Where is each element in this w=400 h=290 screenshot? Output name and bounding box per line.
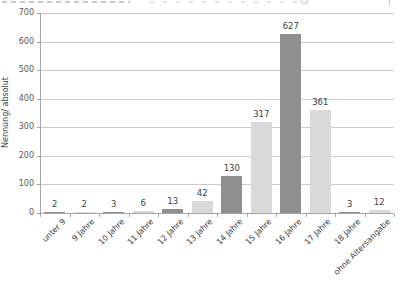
bar <box>280 34 301 213</box>
bar <box>251 122 272 213</box>
x-tick-label: 13 Jahre <box>185 217 215 247</box>
clipped-text-remnant <box>301 0 308 4</box>
gridline <box>40 99 394 100</box>
x-tick-mark <box>365 214 366 217</box>
x-tick-mark <box>335 214 336 217</box>
x-tick-label: 14 Jahre <box>214 217 244 247</box>
screenshot-root: { "chart_data": { "type": "bar", "title"… <box>0 0 400 290</box>
x-tick-mark <box>247 214 248 217</box>
gridline <box>40 42 394 43</box>
bar-value-label: 42 <box>197 188 208 198</box>
clipped-text-remnant <box>2 1 130 3</box>
x-tick-mark <box>70 214 71 217</box>
bar-chart: Nennung/ absolut 01002003004005006007002… <box>0 0 400 290</box>
x-tick-mark <box>394 214 395 217</box>
bar-value-label: 3 <box>111 199 116 209</box>
bar-value-label: 361 <box>312 97 328 107</box>
plot-area <box>40 13 394 213</box>
bar-value-label: 12 <box>374 197 385 207</box>
bar-value-label: 3 <box>347 199 352 209</box>
y-tick-label: 200 <box>0 151 34 160</box>
x-tick-label: 18 Jahre <box>332 217 362 247</box>
gridline <box>40 184 394 185</box>
bar <box>310 110 331 213</box>
x-tick-label: 12 Jahre <box>155 217 185 247</box>
x-tick-label: 15 Jahre <box>244 217 274 247</box>
clipped-text-remnant <box>150 1 300 3</box>
gridline <box>40 13 394 14</box>
bar-value-label: 130 <box>224 163 240 173</box>
y-tick-label: 700 <box>0 8 34 17</box>
x-tick-mark <box>40 214 41 217</box>
x-tick-mark <box>188 214 189 217</box>
gridline <box>40 127 394 128</box>
bar-value-label: 627 <box>283 21 299 31</box>
x-tick-mark <box>306 214 307 217</box>
x-tick-mark <box>129 214 130 217</box>
x-tick-label: 11 Jahre <box>126 217 156 247</box>
y-tick-label: 300 <box>0 122 34 131</box>
bar <box>221 176 242 213</box>
y-tick-label: 100 <box>0 179 34 188</box>
x-tick-label: 16 Jahre <box>273 217 303 247</box>
gridline <box>40 156 394 157</box>
bar <box>192 201 213 213</box>
bar-value-label: 2 <box>82 199 87 209</box>
x-tick-label: unter 9 <box>40 217 67 244</box>
y-tick-label: 600 <box>0 37 34 46</box>
gridline <box>40 70 394 71</box>
y-axis-line <box>40 13 41 217</box>
x-tick-mark <box>99 214 100 217</box>
x-tick-label: ohne Altersangabe <box>332 217 392 277</box>
bar-value-label: 6 <box>141 198 146 208</box>
bar-value-label: 2 <box>52 199 57 209</box>
x-tick-mark <box>276 214 277 217</box>
x-tick-label: 9 Jahre <box>70 217 96 243</box>
x-tick-label: 10 Jahre <box>96 217 126 247</box>
x-tick-mark <box>158 214 159 217</box>
clipped-text-remnant <box>389 0 390 6</box>
x-tick-label: 17 Jahre <box>303 217 333 247</box>
bar-value-label: 317 <box>253 109 269 119</box>
y-axis-title: Nennung/ absolut <box>1 25 12 201</box>
y-tick-label: 0 <box>0 208 34 217</box>
y-tick-label: 500 <box>0 65 34 74</box>
bar-value-label: 13 <box>167 196 178 206</box>
x-tick-mark <box>217 214 218 217</box>
y-tick-label: 400 <box>0 94 34 103</box>
